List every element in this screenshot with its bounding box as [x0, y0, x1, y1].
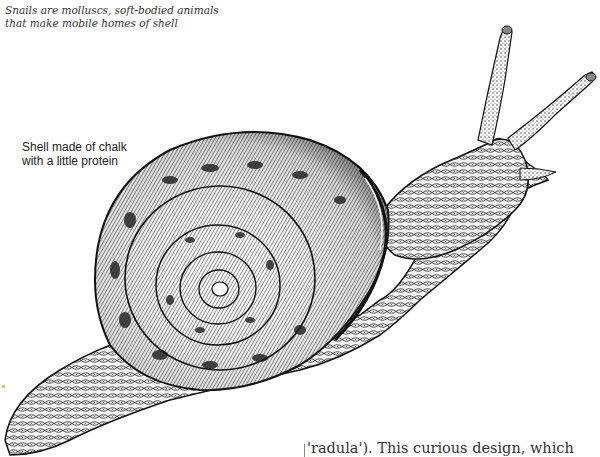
shell-label-line-1: Shell made of chalk	[22, 140, 127, 154]
body-text-fragment: 'radula'). This curious design, which	[307, 439, 574, 457]
shell-label: Shell made of chalk with a little protei…	[22, 140, 127, 168]
orange-speck	[2, 385, 5, 388]
page: Snails are molluscs, soft-bodied animals…	[0, 0, 600, 457]
shell-label-line-2: with a little protein	[22, 154, 127, 168]
column-rule	[304, 444, 305, 457]
snail-illustration	[0, 0, 600, 457]
